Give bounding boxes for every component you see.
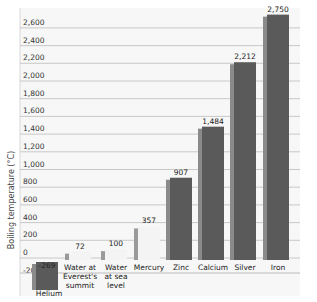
category-label: Everest's — [63, 272, 97, 281]
y-tick-label: 2,200 — [23, 53, 45, 62]
y-tick-label: 0 — [23, 248, 28, 257]
y-tick-label: 1,600 — [23, 106, 45, 115]
bar-iron: 2,750 — [263, 5, 289, 260]
value-label: 72 — [75, 242, 85, 251]
category-label: Zinc — [173, 263, 189, 272]
y-tick-label: 200 — [23, 230, 38, 239]
y-tick-label: 2,400 — [23, 36, 45, 45]
category-label: summit — [66, 281, 94, 290]
y-tick-label: 600 — [23, 195, 38, 204]
bar-helium: -269 — [32, 261, 58, 290]
category-label: Silver — [234, 263, 256, 272]
y-tick-label: 1,000 — [23, 160, 45, 169]
value-label: -269 — [38, 261, 55, 270]
category-label: Helium — [36, 289, 62, 298]
category-label: Iron — [271, 263, 286, 272]
value-label: 1,484 — [202, 117, 224, 126]
y-axis-title: Boiling temperature (°C) — [7, 151, 16, 249]
bar-calcium: 1,484 — [198, 117, 224, 260]
y-tick-label: 1,800 — [23, 89, 45, 98]
category-label: level — [107, 281, 125, 290]
chart-svg: -20002004006008001,0001,2001,4001,6001,8… — [0, 0, 317, 302]
category-label: Water at — [64, 263, 96, 272]
y-tick-label: 1,400 — [23, 124, 45, 133]
category-label: Calcium — [198, 263, 228, 272]
category-label: Water — [105, 263, 128, 272]
value-label: 357 — [142, 216, 157, 225]
value-label: 100 — [109, 239, 124, 248]
value-label: 2,212 — [234, 52, 256, 61]
y-tick-label: 400 — [23, 213, 38, 222]
bar-silver: 2,212 — [230, 52, 256, 260]
boiling-temperature-chart: -20002004006008001,0001,2001,4001,6001,8… — [0, 0, 317, 302]
y-tick-label: 2,000 — [23, 71, 45, 80]
value-label: 2,750 — [267, 5, 289, 14]
y-tick-label: 800 — [23, 177, 38, 186]
y-tick-label: 1,200 — [23, 142, 45, 151]
y-tick-label: 2,600 — [23, 18, 45, 27]
category-label: Mercury — [134, 263, 165, 272]
value-label: 907 — [174, 168, 189, 177]
bar-zinc: 907 — [166, 168, 192, 260]
category-label: at sea — [104, 272, 127, 281]
